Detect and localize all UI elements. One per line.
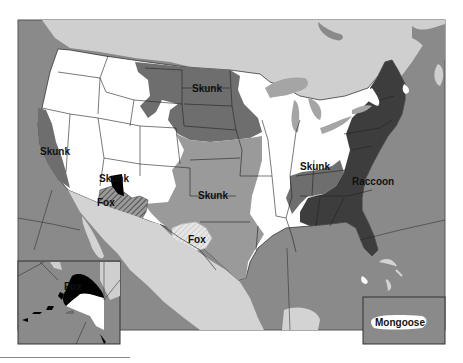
caption-divider xyxy=(0,357,130,358)
label-fox-texas: Fox xyxy=(188,234,206,245)
label-fox-alaska: Fox xyxy=(64,281,82,292)
rabies-reservoir-map: Skunk Skunk Skunk Fox Skunk Fox Skunk Ra… xyxy=(0,0,463,363)
label-fox-arizona: Fox xyxy=(97,197,115,208)
label-mongoose: Mongoose xyxy=(375,317,425,328)
map-canvas: Skunk Skunk Skunk Fox Skunk Fox Skunk Ra… xyxy=(0,0,463,363)
label-skunk-north-central: Skunk xyxy=(192,83,222,94)
label-skunk-arizona: Skunk xyxy=(99,173,129,184)
alaska-inset xyxy=(18,261,120,344)
label-skunk-south-central: Skunk xyxy=(198,190,228,201)
label-skunk-kentucky: Skunk xyxy=(300,161,330,172)
label-raccoon-east: Raccoon xyxy=(352,176,394,187)
label-skunk-california: Skunk xyxy=(40,146,70,157)
